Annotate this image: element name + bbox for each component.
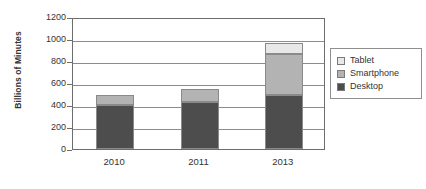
bar-segment-smartphone[interactable] [181, 89, 219, 102]
y-tick-label: 1200 [26, 12, 66, 22]
bar-segment-desktop[interactable] [181, 102, 219, 149]
legend-swatch-icon [337, 83, 345, 91]
y-tick-mark [67, 150, 72, 151]
legend-item-label: Tablet [350, 56, 374, 65]
x-tick-label: 2010 [84, 156, 144, 167]
legend-item[interactable]: Tablet [337, 54, 416, 67]
y-axis-title: Billions of Minutes [13, 0, 23, 140]
plot-area [72, 18, 325, 150]
bar-group[interactable] [181, 17, 219, 149]
y-tick-label: 1000 [26, 34, 66, 44]
bar-segment-smartphone[interactable] [265, 54, 303, 95]
legend-swatch-icon [337, 57, 345, 65]
y-tick-label: 800 [26, 56, 66, 66]
bar-group[interactable] [265, 17, 303, 149]
legend-item[interactable]: Desktop [337, 80, 416, 93]
y-tick-label: 200 [26, 122, 66, 132]
bar-segment-desktop[interactable] [96, 105, 134, 149]
bar-segment-smartphone[interactable] [96, 95, 134, 105]
y-tick-label: 400 [26, 100, 66, 110]
y-tick-label: 600 [26, 78, 66, 88]
bar-group[interactable] [96, 17, 134, 149]
legend-swatch-icon [337, 70, 345, 78]
legend-item-label: Desktop [350, 82, 383, 91]
chart-legend: TabletSmartphoneDesktop [330, 48, 422, 99]
legend-item-label: Smartphone [350, 69, 399, 78]
y-tick-label: 0 [26, 144, 66, 154]
bar-segment-desktop[interactable] [265, 95, 303, 149]
x-tick-label: 2011 [169, 156, 229, 167]
x-tick-label: 2013 [253, 156, 313, 167]
bar-segment-tablet[interactable] [265, 43, 303, 53]
stacked-bar-chart: Billions of Minutes 02004006008001000120… [0, 0, 426, 189]
legend-item[interactable]: Smartphone [337, 67, 416, 80]
